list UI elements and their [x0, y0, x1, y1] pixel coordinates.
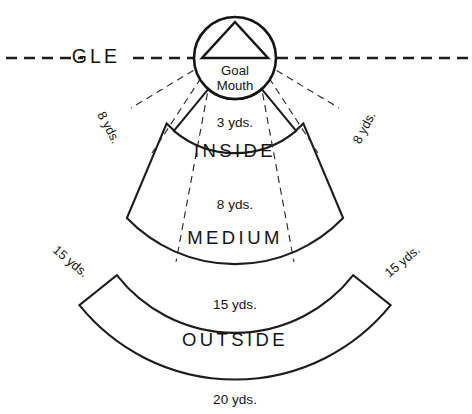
diagram-canvas: GLE Goal Mouth 3 yds. INSIDE 8 yds. 8 yd… — [0, 0, 472, 414]
medium-zone-label: MEDIUM — [187, 227, 282, 248]
medium-near-arc-label: 8 yds. — [217, 197, 253, 212]
outside-near-arc-label: 15 yds. — [213, 297, 257, 312]
medium-right-side-label: 15 yds. — [382, 242, 423, 280]
zone-outside-shape — [79, 275, 390, 379]
goal-mouth-label-line2: Mouth — [217, 78, 254, 93]
bottom-dimension-label: 20 yds. — [213, 392, 257, 407]
goal-zones-diagram: GLE Goal Mouth 3 yds. INSIDE 8 yds. 8 yd… — [0, 0, 472, 414]
inside-zone-label: INSIDE — [194, 140, 276, 161]
outside-zone-label: OUTSIDE — [182, 329, 288, 350]
goal-mouth-label-line1: Goal — [221, 63, 249, 78]
inside-left-side-label: 8 yds. — [94, 109, 123, 146]
gle-label: GLE — [72, 45, 121, 67]
inside-near-arc-label: 3 yds. — [217, 115, 253, 130]
inside-right-side-label: 8 yds. — [349, 109, 378, 146]
medium-left-side-label: 15 yds. — [50, 242, 91, 280]
